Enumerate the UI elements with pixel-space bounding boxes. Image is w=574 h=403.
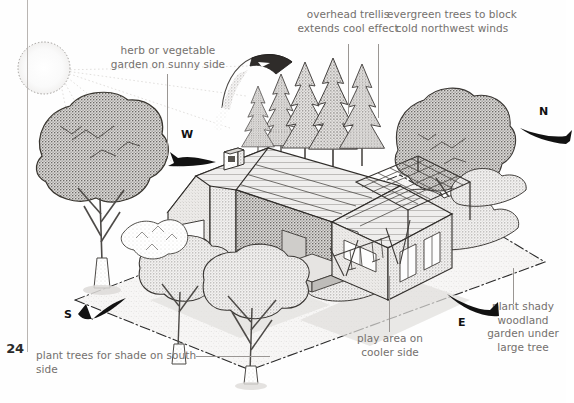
- compass-west-arrow: [166, 142, 220, 168]
- compass-north-label: N: [539, 105, 548, 118]
- caption-play-area: play area on cooler side: [340, 332, 440, 359]
- caption-plant-trees-south: plant trees for shade on south side: [36, 349, 216, 376]
- leader-line-overhead-trellis: [348, 44, 349, 114]
- leader-line-woodland-garden: [513, 268, 514, 304]
- compass-south-label: S: [64, 308, 72, 321]
- caption-evergreen-windbreak: evergreen trees to block cold northwest …: [366, 8, 538, 35]
- compass-east-arrow: [446, 292, 502, 322]
- page-number: 24: [5, 341, 25, 356]
- page-margin-rule: [27, 0, 28, 352]
- compass-north-arrow: [518, 119, 574, 145]
- compass-west-label: W: [181, 128, 193, 141]
- leader-line-play-area: [389, 276, 390, 332]
- leader-line-evergreen-windbreak: [378, 44, 379, 118]
- compass-south-arrow: [76, 288, 132, 328]
- caption-herb-garden: herb or vegetable garden on sunny side: [104, 44, 232, 71]
